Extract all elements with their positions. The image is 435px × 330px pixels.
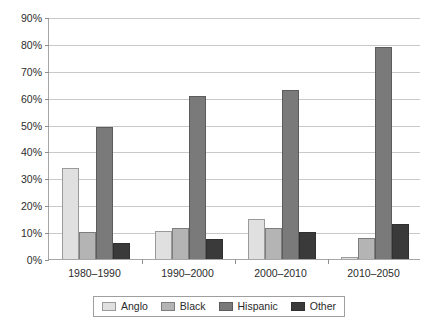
- bar: [282, 90, 299, 259]
- x-axis-tick-label: 2010–2050: [327, 268, 420, 279]
- bar-group-bars: [235, 18, 328, 259]
- legend-swatch-black: [161, 302, 175, 311]
- y-axis-tick-label: 40%: [21, 147, 42, 158]
- bar: [341, 257, 358, 259]
- bar: [248, 219, 265, 259]
- bar: [375, 47, 392, 259]
- bar-group: [328, 18, 421, 259]
- bar: [392, 224, 409, 259]
- bar-group: [49, 18, 142, 259]
- y-axis-tick: [45, 260, 49, 261]
- y-axis-tick-label: 10%: [21, 228, 42, 239]
- y-axis-tick-label: 90%: [21, 13, 42, 24]
- legend-swatch-other: [291, 302, 305, 311]
- y-axis-tick-label: 80%: [21, 40, 42, 51]
- bar: [62, 168, 79, 259]
- x-axis-tick: [142, 259, 143, 264]
- bar: [79, 232, 96, 259]
- bar: [189, 96, 206, 259]
- x-axis-tick-label: 1990–2000: [141, 268, 234, 279]
- x-axis-tick-label: 1980–1990: [48, 268, 141, 279]
- legend-item: Other: [291, 301, 336, 312]
- y-axis-tick-label: 60%: [21, 93, 42, 104]
- bar-chart: 0%10%20%30%40%50%60%70%80%90% 1980–19901…: [0, 0, 435, 330]
- plot-area: 0%10%20%30%40%50%60%70%80%90%: [48, 18, 420, 260]
- x-axis-tick: [235, 259, 236, 264]
- y-axis-tick-label: 70%: [21, 67, 42, 78]
- chart-legend: AngloBlackHispanicOther: [93, 296, 345, 317]
- y-axis-tick-label: 20%: [21, 201, 42, 212]
- bar-group-bars: [49, 18, 142, 259]
- bar: [96, 127, 113, 259]
- bar: [358, 238, 375, 260]
- bar-group: [142, 18, 235, 259]
- y-axis-tick-label: 30%: [21, 174, 42, 185]
- legend-swatch-anglo: [102, 302, 116, 311]
- bar: [172, 228, 189, 259]
- y-axis-tick-label: 0%: [27, 255, 42, 266]
- bar-group-bars: [142, 18, 235, 259]
- legend-label: Black: [180, 301, 206, 312]
- bar-group: [235, 18, 328, 259]
- bar: [265, 228, 282, 259]
- bar: [299, 232, 316, 259]
- bar: [206, 239, 223, 259]
- bar: [155, 231, 172, 259]
- x-axis-tick-label: 2000–2010: [234, 268, 327, 279]
- legend-item: Hispanic: [219, 301, 278, 312]
- legend-item: Anglo: [102, 301, 148, 312]
- bar-group-bars: [328, 18, 421, 259]
- legend-label: Other: [310, 301, 336, 312]
- x-axis-tick: [328, 259, 329, 264]
- legend-label: Hispanic: [238, 301, 278, 312]
- legend-label: Anglo: [121, 301, 148, 312]
- y-axis-tick-label: 50%: [21, 120, 42, 131]
- legend-swatch-hispanic: [219, 302, 233, 311]
- bar: [113, 243, 130, 259]
- legend-item: Black: [161, 301, 206, 312]
